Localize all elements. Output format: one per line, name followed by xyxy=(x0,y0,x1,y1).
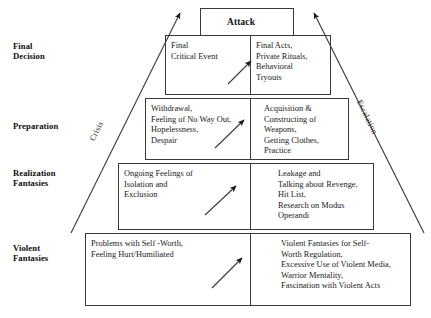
cell-realization-fantasies-left: Ongoing Feelings of Isolation and Exclus… xyxy=(124,169,193,201)
cell-violent-fantasies-left: Problems with Self -Worth, Feeling Hurt/… xyxy=(91,239,183,260)
cell-preparation-left: Withdrawal, Feeling of No Way Out, Hopel… xyxy=(151,104,231,146)
cell-final-decision-right: Final Acts, Private Rituals, Behavioral … xyxy=(256,41,308,83)
stage-label-realization-fantasies: Realization Fantasies xyxy=(13,168,56,189)
stage-label-preparation: Preparation xyxy=(13,121,58,131)
cell-preparation-right: Acquisition & Constructing of Weapons, G… xyxy=(264,104,319,157)
cell-realization-fantasies-right: Leakage and Talking about Revenge, Hit L… xyxy=(278,169,358,222)
attack-label: Attack xyxy=(227,17,255,27)
stage-label-violent-fantasies: Violent Fantasies xyxy=(13,243,48,264)
cell-violent-fantasies-right: Violent Fantasies for Self- Worth Regula… xyxy=(281,239,391,292)
flow-arrow-realization-fantasies xyxy=(205,186,236,215)
stage-label-final-decision: Final Decision xyxy=(13,41,45,62)
flow-arrow-final-decision xyxy=(228,61,251,84)
flow-arrow-violent-fantasies xyxy=(212,258,242,288)
cell-final-decision-left: Final Critical Event xyxy=(171,41,218,62)
diagram-canvas: Attack Final Decision Preparation Realiz… xyxy=(0,0,431,318)
